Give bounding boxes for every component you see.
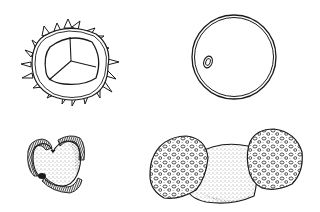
spherical-grain-figure bbox=[192, 15, 276, 99]
pollen-illustration bbox=[0, 0, 320, 212]
spiny-spore-figure bbox=[21, 19, 119, 106]
bisaccate-grain-figure bbox=[150, 129, 302, 203]
triangular-grain-figure bbox=[28, 136, 85, 193]
